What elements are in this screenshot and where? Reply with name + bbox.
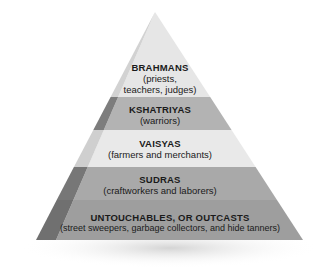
- vaisyas-subtitle: (farmers and merchants): [95, 149, 225, 160]
- vaisyas-title: VAISYAS: [95, 138, 225, 149]
- label-sudras: SUDRAS (craftworkers and laborers): [85, 174, 235, 196]
- caste-pyramid-diagram: BRAHMANS (priests, teachers, judges) KSH…: [0, 0, 322, 273]
- brahmans-subtitle-line2: teachers, judges): [105, 84, 215, 95]
- brahmans-subtitle-line1: (priests,: [105, 73, 215, 84]
- brahmans-title: BRAHMANS: [105, 62, 215, 73]
- label-kshatriyas: KSHATRIYAS (warriors): [105, 104, 215, 126]
- label-vaisyas: VAISYAS (farmers and merchants): [95, 138, 225, 160]
- kshatriyas-title: KSHATRIYAS: [105, 104, 215, 115]
- untouchables-title: UNTOUCHABLES, OR OUTCASTS: [40, 212, 300, 223]
- kshatriyas-subtitle: (warriors): [105, 115, 215, 126]
- untouchables-subtitle: (street sweepers, garbage collectors, an…: [40, 223, 300, 234]
- sudras-title: SUDRAS: [85, 174, 235, 185]
- sudras-subtitle: (craftworkers and laborers): [85, 185, 235, 196]
- label-brahmans: BRAHMANS (priests, teachers, judges): [105, 62, 215, 95]
- label-untouchables: UNTOUCHABLES, OR OUTCASTS (street sweepe…: [40, 212, 300, 234]
